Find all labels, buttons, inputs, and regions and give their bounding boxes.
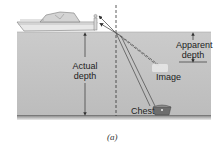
figure-caption: (a) [107,132,118,142]
chest-label: Chest [131,106,155,116]
image-marker [152,64,168,72]
boat [17,12,97,31]
refraction-diagram [0,0,224,144]
actual-depth-label-line2: depth [70,71,100,81]
apparent-depth-label-line1: Apparent [176,40,210,50]
chest [153,105,171,115]
apparent-depth-label-line2: depth [176,50,210,60]
image-label: Image [156,72,181,82]
apparent-depth-label: Apparent depth [176,40,210,60]
observer-person [94,14,97,30]
actual-depth-label: Actual depth [70,61,100,81]
actual-depth-label-line1: Actual [70,61,100,71]
